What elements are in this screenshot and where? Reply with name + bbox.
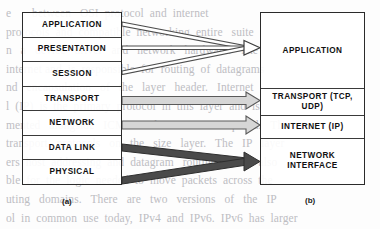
tcpip-layer-label: APPLICATION (283, 46, 343, 56)
arrow-session-to-application (122, 46, 247, 75)
osi-layer-label: PRESENTATION (38, 44, 106, 54)
tcpip-layer-network-interface[interactable]: NETWORK INTERFACE (261, 139, 364, 183)
watermark-line: ol in common use today, IPv4 and IPv6. I… (6, 209, 374, 228)
tcpip-stack: APPLICATION TRANSPORT (TCP, UDP) INTERNE… (260, 12, 365, 185)
tcpip-layer-internet[interactable]: INTERNET (IP) (261, 116, 364, 139)
tcpip-layer-label: TRANSPORT (TCP, UDP) (272, 92, 352, 112)
arrow-physical-to-network-interface (122, 158, 247, 184)
osi-layer-label: APPLICATION (42, 20, 102, 30)
arrow-application-to-application (122, 22, 247, 50)
tcpip-layer-application[interactable]: APPLICATION (261, 13, 364, 89)
osi-layer-label: DATA LINK (49, 143, 96, 153)
osi-layer-transport[interactable]: TRANSPORT (23, 87, 121, 112)
arrow-transport-to-transport (122, 92, 260, 109)
osi-layer-network[interactable]: NETWORK (23, 111, 121, 136)
arrow-presentation-to-application (122, 46, 247, 50)
osi-layer-data-link[interactable]: DATA LINK (23, 136, 121, 161)
caption-a: (a) (62, 197, 72, 206)
osi-layer-presentation[interactable]: PRESENTATION (23, 38, 121, 63)
watermark-line: ids, and excludes packet fragmentation i… (6, 227, 374, 229)
osi-layer-label: SESSION (52, 69, 92, 79)
arrowhead-network-interface (244, 152, 260, 171)
arrow-datalink-to-network-interface (122, 144, 247, 165)
osi-layer-label: PHYSICAL (50, 167, 95, 177)
figure-osi-vs-tcpip: e between OSI protocol and internet prot… (0, 0, 380, 229)
osi-layer-physical[interactable]: PHYSICAL (23, 160, 121, 184)
osi-layer-label: NETWORK (49, 118, 94, 128)
osi-layer-label: TRANSPORT (45, 94, 100, 104)
tcpip-layer-transport[interactable]: TRANSPORT (TCP, UDP) (261, 89, 364, 116)
osi-layer-application[interactable]: APPLICATION (23, 13, 121, 38)
caption-b: (b) (305, 196, 315, 205)
osi-stack: APPLICATION PRESENTATION SESSION TRANSPO… (22, 12, 122, 185)
tcpip-layer-label: NETWORK INTERFACE (287, 151, 337, 171)
osi-layer-session[interactable]: SESSION (23, 62, 121, 87)
arrowhead-application (244, 41, 260, 56)
tcpip-layer-label: INTERNET (IP) (281, 122, 343, 132)
arrow-network-to-internet (122, 116, 260, 134)
